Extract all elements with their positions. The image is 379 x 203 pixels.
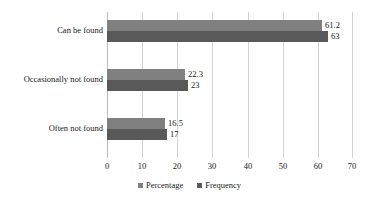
legend-label-percentage: Percentage — [146, 180, 183, 190]
bar-percentage-can-be-found[interactable] — [107, 20, 322, 31]
xtick-50: 50 — [268, 161, 298, 171]
gridline-70 — [352, 12, 353, 158]
legend-swatch-frequency-icon — [197, 183, 202, 188]
bar-frequency-occasionally-not-found[interactable] — [107, 80, 188, 91]
bar-frequency-often-not-found[interactable] — [107, 129, 167, 140]
bar-percentage-occasionally-not-found[interactable] — [107, 69, 185, 80]
xtick-10: 10 — [127, 161, 157, 171]
xtick-30: 30 — [197, 161, 227, 171]
category-label-occasionally-not-found: Occasionally not found — [0, 74, 103, 84]
bar-chart: Can be found Occasionally not found Ofte… — [0, 0, 379, 203]
bar-value-percentage-can-be-found: 61.2 — [325, 20, 340, 31]
xtick-20: 20 — [162, 161, 192, 171]
bar-value-frequency-occasionally-not-found: 23 — [191, 80, 200, 91]
legend-item-frequency[interactable]: Frequency — [197, 180, 241, 190]
bar-value-percentage-occasionally-not-found: 22.3 — [188, 69, 203, 80]
legend-item-percentage[interactable]: Percentage — [138, 180, 183, 190]
xtick-0: 0 — [92, 161, 122, 171]
bar-value-frequency-often-not-found: 17 — [170, 129, 179, 140]
bar-percentage-often-not-found[interactable] — [107, 118, 165, 129]
xtick-70: 70 — [337, 161, 367, 171]
bar-frequency-can-be-found[interactable] — [107, 31, 328, 42]
chart-legend: Percentage Frequency — [0, 180, 379, 190]
plot-area: 61.2 63 22.3 23 16.5 17 — [107, 12, 353, 158]
legend-swatch-percentage-icon — [138, 183, 143, 188]
legend-label-frequency: Frequency — [205, 180, 241, 190]
category-label-can-be-found: Can be found — [0, 25, 103, 35]
bar-value-percentage-often-not-found: 16.5 — [168, 118, 183, 129]
category-label-often-not-found: Often not found — [0, 123, 103, 133]
xtick-60: 60 — [303, 161, 333, 171]
bar-value-frequency-can-be-found: 63 — [331, 31, 340, 42]
xtick-40: 40 — [233, 161, 263, 171]
